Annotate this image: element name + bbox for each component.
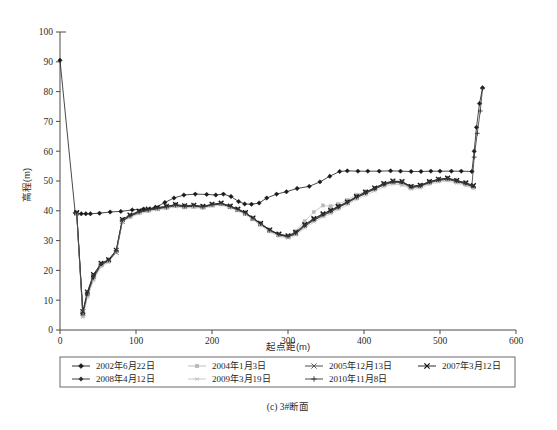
figure-container: 0102030405060708090100010020030040050060… — [0, 0, 557, 430]
y-axis-tick-label: 40 — [44, 206, 54, 216]
legend-label: 2007年3月12日 — [442, 360, 501, 371]
x-axis-tick-label: 100 — [129, 336, 144, 346]
y-axis-tick-label: 0 — [48, 325, 53, 335]
y-axis-tick-label: 30 — [44, 236, 54, 246]
data-point-marker — [321, 204, 324, 207]
figure-caption: (c) 3#断面 — [267, 401, 309, 413]
y-axis-title: 高程(m) — [21, 168, 32, 202]
data-point-marker — [329, 205, 332, 208]
legend-label: 2008年4月12日 — [96, 373, 155, 384]
y-axis-tick-label: 100 — [39, 27, 54, 37]
data-point-marker — [195, 364, 199, 368]
elevation-profile-chart: 0102030405060708090100010020030040050060… — [0, 0, 557, 430]
x-axis-tick-label: 600 — [509, 336, 524, 346]
x-axis-tick-label: 400 — [357, 336, 372, 346]
y-axis-tick-label: 50 — [44, 176, 54, 186]
x-axis-tick-label: 500 — [433, 336, 448, 346]
x-axis-tick-label: 0 — [58, 336, 63, 346]
y-axis-tick-label: 10 — [44, 296, 54, 306]
legend-label: 2004年1月3日 — [212, 360, 266, 371]
legend-label: 2009年3月19日 — [212, 373, 271, 384]
data-point-marker — [312, 210, 315, 213]
y-axis-tick-label: 80 — [44, 87, 54, 97]
legend-label: 2002年6月22日 — [96, 360, 155, 371]
legend-label: 2005年12月13日 — [329, 360, 392, 371]
data-point-marker — [303, 220, 306, 223]
x-axis-tick-label: 200 — [205, 336, 220, 346]
x-axis-title: 起点距(m) — [266, 341, 310, 352]
y-axis-tick-label: 90 — [44, 57, 54, 67]
y-axis-tick-label: 60 — [44, 147, 54, 157]
y-axis-tick-label: 70 — [44, 117, 54, 127]
y-axis-tick-label: 20 — [44, 266, 54, 276]
legend-label: 2010年11月8日 — [329, 373, 387, 384]
